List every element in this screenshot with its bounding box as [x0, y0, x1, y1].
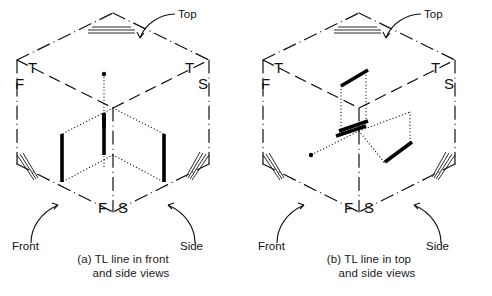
glass-box-diagram-b: T F T S F S Top Front Side — [246, 0, 492, 250]
caption-line-1-b: (b) TL line in top — [246, 252, 492, 266]
leader-label-top-b: Top — [424, 8, 443, 20]
fold-hatch-top-b — [334, 27, 381, 33]
corner-label-top-right-lower-b: S — [444, 75, 454, 92]
fold-hatch-top-a — [88, 27, 135, 33]
leader-label-top-a: Top — [178, 8, 197, 20]
caption-line-2-a: and side views — [0, 266, 246, 280]
figure-caption-b: (b) TL line in top and side views — [246, 252, 492, 280]
leader-side-a: Side — [168, 203, 203, 250]
corner-label-bottom-right-b: S — [364, 199, 374, 216]
box-edge-top-left-b — [263, 13, 359, 60]
leader-label-side-b: Side — [426, 240, 449, 250]
corner-label-bottom-left-a: F — [98, 199, 107, 216]
box-fold-top-side-b — [359, 60, 455, 108]
leader-top-a: Top — [137, 8, 197, 38]
corner-label-bottom-left-b: F — [344, 199, 353, 216]
projector-to-side-lower-b — [359, 131, 384, 162]
leader-side-b: Side — [414, 203, 449, 250]
leader-front-a: Front — [12, 203, 58, 250]
leader-label-side-a: Side — [180, 240, 203, 250]
leader-label-front-b: Front — [258, 240, 286, 250]
figure-caption-a: (a) TL line in front and side views — [0, 252, 246, 280]
box-fold-top-side-a — [113, 60, 209, 108]
corner-label-top-right-upper-b: T — [431, 59, 440, 76]
projector-lower-left-a — [62, 155, 113, 182]
corner-label-top-right-upper-a: T — [185, 59, 194, 76]
corner-label-top-right-lower-a: S — [198, 75, 208, 92]
leader-label-front-a: Front — [12, 240, 40, 250]
leader-top-b: Top — [383, 8, 443, 38]
figure-panel-b: T F T S F S Top Front Side — [246, 0, 492, 296]
glass-box-diagram-a: T F T S F S Top Front Side — [0, 0, 246, 250]
fold-hatch-front-b — [263, 153, 284, 180]
caption-line-1-a: (a) TL line in front — [0, 252, 246, 266]
caption-line-2-b: and side views — [246, 266, 492, 280]
tl-segment-side-b — [385, 142, 412, 162]
corner-label-top-left-upper-b: T — [274, 59, 283, 76]
projector-to-point-b — [311, 131, 359, 155]
leader-front-b: Front — [258, 203, 304, 250]
box-edge-top-right-a — [113, 13, 209, 60]
projector-upper-right-a — [113, 108, 164, 134]
box-edge-top-right-b — [359, 13, 455, 60]
figure-panel-a: T F T S F S Top Front Side — [0, 0, 246, 296]
corner-label-bottom-right-a: S — [118, 199, 128, 216]
corner-label-top-left-upper-a: T — [28, 59, 37, 76]
fold-hatch-front-a — [17, 153, 38, 180]
tl-segment-top-b — [341, 70, 368, 86]
corner-label-top-left-lower-a: F — [15, 75, 24, 92]
projector-lower-right-a — [113, 155, 164, 182]
figure-root: T F T S F S Top Front Side — [0, 0, 492, 296]
box-edge-top-left-a — [17, 13, 113, 60]
point-view-dot-a — [102, 72, 106, 76]
corner-label-top-left-lower-b: F — [261, 75, 270, 92]
point-view-dot-b — [309, 153, 313, 157]
